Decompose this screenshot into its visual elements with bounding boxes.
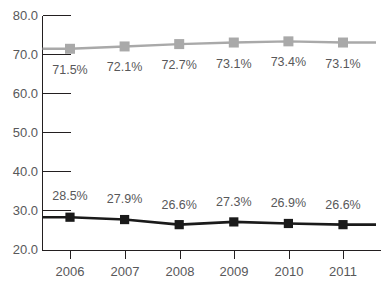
data-point-label: 26.6% [325,198,360,212]
data-point-marker[interactable] [120,41,130,51]
data-point-marker[interactable] [284,219,293,228]
y-tick-label: 80.0 [13,8,38,23]
data-point-label: 72.1% [107,60,142,74]
series-line-upper-series [43,41,377,48]
data-point-marker[interactable] [120,215,129,224]
chart-container: 80.0 70.0 60.0 50.0 40.0 30.0 20.0 2006 … [0,0,392,284]
y-tick-label: 50.0 [13,125,38,140]
data-point-label: 26.9% [271,196,306,210]
x-tick-label-2008: 2008 [166,264,195,279]
data-point-marker[interactable] [174,39,184,49]
data-point-label: 73.1% [325,57,360,71]
data-point-marker[interactable] [65,213,74,222]
x-tick-marks [71,251,344,259]
data-point-marker[interactable] [65,44,75,54]
data-point-marker[interactable] [338,220,347,229]
data-point-label: 71.5% [52,63,87,77]
line-chart: 80.0 70.0 60.0 50.0 40.0 30.0 20.0 2006 … [0,0,392,284]
data-point-label: 27.3% [216,195,251,209]
x-tick-label-2007: 2007 [111,264,140,279]
data-point-marker[interactable] [283,36,293,46]
data-point-label: 73.1% [216,57,251,71]
data-point-label: 26.6% [161,198,196,212]
y-tick-label: 20.0 [13,242,38,257]
data-point-label: 73.4% [271,55,306,69]
data-point-label: 27.9% [107,192,142,206]
series-line-lower-series [43,217,377,224]
x-tick-label-2009: 2009 [220,264,249,279]
y-tick-label: 30.0 [13,203,38,218]
x-tick-label-2010: 2010 [275,264,304,279]
y-tick-label: 70.0 [13,47,38,62]
x-tick-label-2006: 2006 [56,264,85,279]
data-point-marker[interactable] [175,220,184,229]
x-axis-tick-labels: 2006 2007 2008 2009 2010 2011 [56,264,357,279]
data-labels-layer: 71.5%72.1%72.7%73.1%73.4%73.1%28.5%27.9%… [52,55,360,211]
y-axis-tick-labels: 80.0 70.0 60.0 50.0 40.0 30.0 20.0 [13,8,38,257]
x-tick-label-2011: 2011 [329,264,357,279]
data-point-label: 72.7% [161,58,196,72]
data-point-label: 28.5% [52,189,87,203]
data-point-marker[interactable] [229,217,238,226]
data-point-marker[interactable] [338,38,348,48]
y-tick-label: 40.0 [13,164,38,179]
data-point-marker[interactable] [229,38,239,48]
y-tick-label: 60.0 [13,86,38,101]
